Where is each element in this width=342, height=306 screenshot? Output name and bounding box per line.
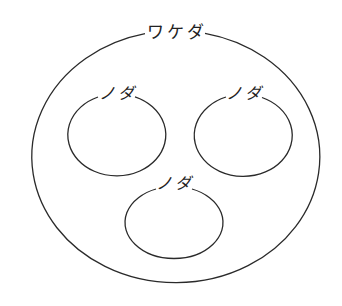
set-diagram — [0, 0, 342, 306]
inner-set-label-right: ノダ — [226, 86, 264, 102]
inner-set-boundary-bottom — [125, 189, 223, 258]
outer-set-label: ワケダ — [147, 24, 207, 41]
inner-set-label-bottom: ノダ — [156, 176, 194, 192]
inner-set-label-left: ノダ — [99, 86, 137, 102]
inner-set-boundary-left — [68, 97, 166, 176]
outer-set-boundary — [32, 33, 320, 282]
inner-set-boundary-right — [194, 97, 292, 176]
